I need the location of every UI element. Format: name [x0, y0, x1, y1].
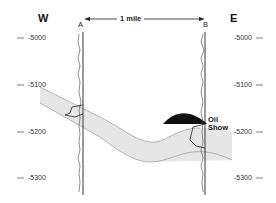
distance-label: 1 mile	[117, 14, 144, 23]
depth-label-left-5300: -5300	[28, 174, 46, 181]
depth-label-left-5000: -5000	[28, 34, 46, 41]
oil-show-line2: Show	[208, 124, 228, 132]
diagram-canvas	[0, 0, 276, 203]
depth-label-right-5200: -5200	[234, 128, 252, 135]
depth-ticks-right	[256, 38, 263, 178]
direction-west: W	[38, 12, 48, 24]
depth-ticks-left	[17, 38, 24, 178]
depth-label-left-5200: -5200	[28, 128, 46, 135]
arrow-head-left-icon	[84, 17, 90, 21]
cross-section-diagram: W E A B 1 mile -5000 -5100 -5200 -5300 -…	[0, 0, 276, 203]
depth-label-left-5100: -5100	[28, 81, 46, 88]
well-b-log	[201, 34, 204, 192]
oil-show-annotation: Oil Show	[208, 116, 228, 132]
depth-label-right-5100: -5100	[234, 81, 252, 88]
well-a-label: A	[78, 20, 83, 29]
depth-label-right-5000: -5000	[234, 34, 252, 41]
well-b-label: B	[203, 20, 208, 29]
oil-accumulation	[163, 113, 207, 124]
depth-label-right-5300: -5300	[234, 174, 252, 181]
direction-east: E	[230, 12, 237, 24]
